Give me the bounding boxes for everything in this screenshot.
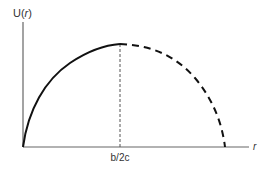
x-tick-label: b/2c	[111, 152, 130, 163]
rising-curve	[23, 44, 120, 147]
chart: U(r) r b/2c	[0, 0, 268, 170]
x-axis-label: r	[253, 141, 257, 152]
falling-curve	[120, 44, 225, 147]
y-axis-label: U(r)	[13, 7, 32, 19]
